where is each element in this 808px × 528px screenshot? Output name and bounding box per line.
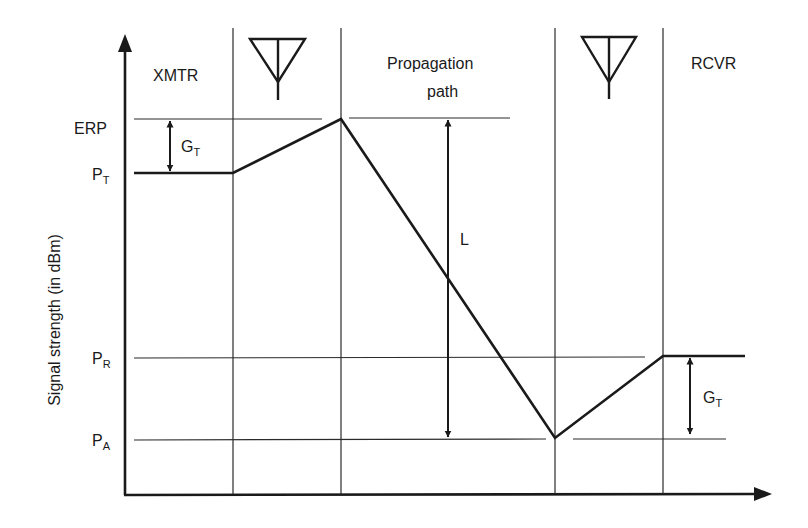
x-axis-arrow-icon	[754, 487, 772, 501]
level-label-pr: PR	[92, 350, 111, 370]
level-label-erp: ERP	[74, 120, 107, 137]
annotation-loss: L	[460, 231, 469, 248]
section-label-rcvr: RCVR	[691, 55, 736, 72]
annotation-gain-rx: GT	[703, 389, 722, 409]
signal-level-diagram: XMTR Propagation path RCVR ERP PT PR PA …	[0, 0, 808, 528]
rx-antenna-icon	[582, 37, 636, 99]
reference-levels	[134, 118, 726, 440]
x-axis	[124, 494, 758, 495]
dimension-arrows	[170, 120, 690, 437]
level-label-pt: PT	[92, 166, 110, 186]
signal-level-trace	[134, 119, 745, 438]
tx-antenna-icon	[250, 39, 305, 100]
section-label-propagation-line1: Propagation	[387, 55, 473, 72]
axes	[118, 34, 772, 501]
pr-level-line	[134, 357, 645, 358]
y-axis-title: Signal strength (in dBm)	[46, 234, 63, 406]
section-label-xmtr: XMTR	[153, 67, 198, 84]
section-label-propagation-line2: path	[427, 83, 458, 100]
pa-level-line-left	[134, 439, 546, 440]
annotation-gain-tx: GT	[181, 138, 200, 158]
level-label-pa: PA	[92, 432, 111, 452]
y-axis-arrow-icon	[118, 34, 132, 52]
